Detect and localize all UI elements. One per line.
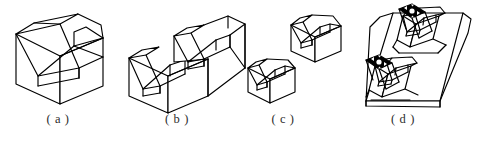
block-b-upper-rear-top <box>230 24 245 35</box>
base-plate-front-edge <box>366 101 440 107</box>
block-c1-rear-silhouette <box>312 15 341 26</box>
block-c1-left-wall-top <box>291 15 312 25</box>
block-b-upper-right-wall-top <box>216 35 230 47</box>
figure-a-v-block <box>16 14 103 104</box>
figure-d-assembly <box>366 4 471 107</box>
block-a-left-face <box>16 34 60 104</box>
figure-illustration <box>0 0 478 141</box>
figure-c-v-block-lower <box>248 59 295 103</box>
block-c2-left-wall-top <box>248 59 267 68</box>
block-b-upper-groove-right-flank-far <box>204 47 230 59</box>
block-b-upper-left-wall-top <box>174 25 204 36</box>
block-b-slanted-back-face <box>208 68 245 96</box>
block-b-upper-left-face <box>174 36 208 62</box>
block-b-upper-right-to-back <box>230 47 245 68</box>
figure-b-stepped-v-block <box>129 16 245 113</box>
block-b-lower-left-wall-top <box>129 47 159 58</box>
figure-c-v-block-upper <box>291 15 341 62</box>
figure-sheet: ( a ) ( b ) ( c ) ( d ) <box>0 0 478 141</box>
